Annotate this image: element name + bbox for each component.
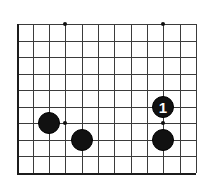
go-board-diagram: 1 bbox=[0, 0, 214, 185]
stone-black-left-upper[interactable] bbox=[38, 112, 60, 134]
stone-black-move-1[interactable]: 1 bbox=[152, 96, 174, 118]
board-stones: 1 bbox=[0, 0, 214, 185]
stone-move-number: 1 bbox=[153, 97, 173, 117]
stone-black-right-lower[interactable] bbox=[152, 129, 174, 151]
stone-black-left-lower[interactable] bbox=[71, 129, 93, 151]
